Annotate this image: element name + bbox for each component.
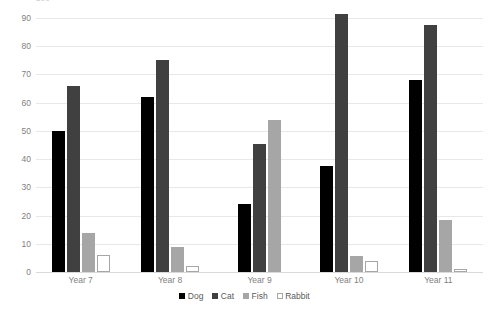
y-tick-label-10: 10 xyxy=(0,240,31,249)
bar-rabbit-year-7[interactable] xyxy=(97,255,110,272)
bar-rabbit-year-11[interactable] xyxy=(454,269,467,272)
bar-cat-year-7[interactable] xyxy=(67,86,80,272)
x-tick-label-year-7: Year 7 xyxy=(36,276,125,285)
bar-fish-year-8[interactable] xyxy=(171,247,184,272)
bar-cat-year-8[interactable] xyxy=(156,60,169,272)
legend-swatch-cat-icon xyxy=(212,293,218,299)
bar-fish-year-10[interactable] xyxy=(350,256,363,272)
legend-label-dog: Dog xyxy=(188,292,204,301)
legend-label-rabbit: Rabbit xyxy=(285,292,310,301)
y-axis-clipped-tick-label: 100 xyxy=(16,0,50,3)
bar-fish-year-9[interactable] xyxy=(268,120,281,272)
y-tick-label-0: 0 xyxy=(0,268,31,277)
bar-chart: 100 0102030405060708090 Year 7Year 8Year… xyxy=(0,0,489,315)
x-tick-label-year-10: Year 10 xyxy=(304,276,393,285)
y-tick-label-50: 50 xyxy=(0,127,31,136)
bar-dog-year-10[interactable] xyxy=(320,166,333,272)
y-tick-label-70: 70 xyxy=(0,70,31,79)
y-tick-label-30: 30 xyxy=(0,183,31,192)
legend-swatch-fish-icon xyxy=(243,293,249,299)
legend-item-fish[interactable]: Fish xyxy=(243,292,268,301)
bar-group-year-11 xyxy=(394,8,483,272)
y-tick-label-90: 90 xyxy=(0,14,31,23)
legend-label-fish: Fish xyxy=(252,292,268,301)
x-tick-label-year-11: Year 11 xyxy=(394,276,483,285)
bar-cat-year-11[interactable] xyxy=(424,25,437,272)
bar-dog-year-8[interactable] xyxy=(141,97,154,272)
legend-item-cat[interactable]: Cat xyxy=(212,292,234,301)
y-tick-label-20: 20 xyxy=(0,211,31,220)
bar-dog-year-7[interactable] xyxy=(52,131,65,272)
axis-baseline xyxy=(36,272,483,273)
bar-rabbit-year-8[interactable] xyxy=(186,266,199,272)
bar-dog-year-11[interactable] xyxy=(409,80,422,272)
legend-item-rabbit[interactable]: Rabbit xyxy=(277,292,310,301)
bar-dog-year-9[interactable] xyxy=(238,204,251,272)
bar-cat-year-10[interactable] xyxy=(335,14,348,272)
bar-group-year-9 xyxy=(215,8,304,272)
bar-group-year-10 xyxy=(304,8,393,272)
bar-fish-year-7[interactable] xyxy=(82,233,95,273)
bar-rabbit-year-10[interactable] xyxy=(365,261,378,272)
legend-label-cat: Cat xyxy=(221,292,234,301)
y-tick-label-40: 40 xyxy=(0,155,31,164)
x-axis-tick-labels: Year 7Year 8Year 9Year 10Year 11 xyxy=(36,276,483,285)
bar-group-year-7 xyxy=(36,8,125,272)
y-tick-label-80: 80 xyxy=(0,42,31,51)
legend-swatch-dog-icon xyxy=(179,293,185,299)
bar-group-year-8 xyxy=(125,8,214,272)
bar-fish-year-11[interactable] xyxy=(439,220,452,272)
legend-swatch-rabbit-icon xyxy=(277,293,283,299)
bar-cat-year-9[interactable] xyxy=(253,144,266,272)
y-tick-label-60: 60 xyxy=(0,98,31,107)
chart-legend: DogCatFishRabbit xyxy=(0,292,489,301)
plot-area: 0102030405060708090 xyxy=(36,8,483,272)
bar-groups xyxy=(36,8,483,272)
x-tick-label-year-9: Year 9 xyxy=(215,276,304,285)
x-tick-label-year-8: Year 8 xyxy=(125,276,214,285)
legend-item-dog[interactable]: Dog xyxy=(179,292,203,301)
